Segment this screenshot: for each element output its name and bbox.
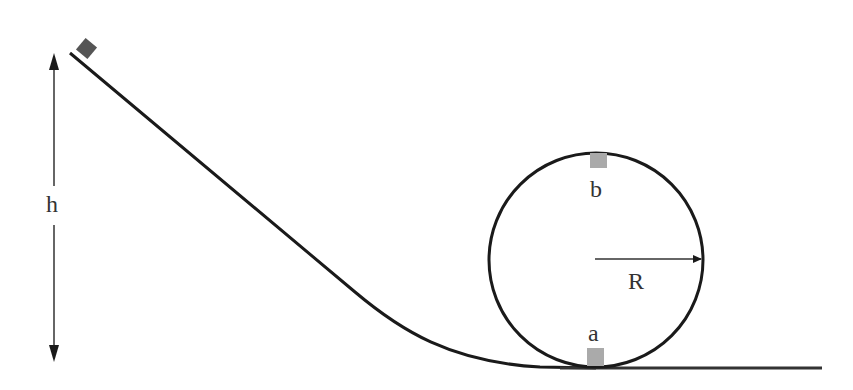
arrow-up-icon [49, 53, 59, 70]
block-b [590, 153, 607, 168]
point-b-label: b [590, 176, 602, 202]
loop-the-loop-diagram: h b a R [0, 0, 853, 390]
start-block [76, 38, 97, 59]
arrow-down-icon [49, 345, 59, 362]
block-a [587, 348, 604, 366]
point-a-label: a [588, 320, 599, 346]
incline-track [70, 53, 596, 368]
radius-label: R [628, 268, 644, 294]
height-label: h [46, 191, 58, 217]
